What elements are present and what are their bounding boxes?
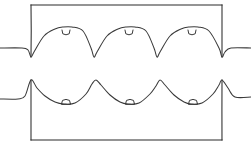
canvas-background xyxy=(0,0,251,147)
waveform-figure: Two-trace waveform diagram Hand-drawn re… xyxy=(0,0,251,147)
waveform-canvas xyxy=(0,0,251,147)
